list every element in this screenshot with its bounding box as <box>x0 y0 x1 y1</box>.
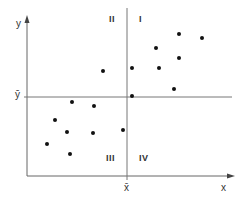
data-point <box>154 46 158 50</box>
data-point <box>177 32 181 36</box>
data-point <box>65 130 69 134</box>
data-point <box>70 100 74 104</box>
data-point <box>101 69 105 73</box>
quadrant-label-ii: II <box>109 14 115 24</box>
data-points <box>45 32 204 156</box>
x-axis-label: x <box>221 183 226 193</box>
data-point <box>177 56 181 60</box>
data-point <box>157 66 161 70</box>
data-point <box>130 94 134 98</box>
data-point <box>91 131 95 135</box>
quadrant-label-iv: IV <box>139 153 149 163</box>
data-point <box>121 128 125 132</box>
x-axis-arrow-icon <box>227 174 235 179</box>
x-mean-label: x̄ <box>124 183 129 193</box>
data-point <box>68 152 72 156</box>
data-point <box>53 118 57 122</box>
data-point <box>200 36 204 40</box>
y-axis-arrow-icon <box>25 15 30 23</box>
quadrant-label-i: I <box>139 14 142 24</box>
data-point <box>130 66 134 70</box>
plot-area <box>0 0 249 206</box>
data-point <box>92 104 96 108</box>
y-axis-label: y <box>16 19 21 29</box>
y-mean-label: ȳ <box>15 90 20 100</box>
quadrant-label-iii: III <box>106 153 115 163</box>
data-point <box>45 142 49 146</box>
data-point <box>172 87 176 91</box>
